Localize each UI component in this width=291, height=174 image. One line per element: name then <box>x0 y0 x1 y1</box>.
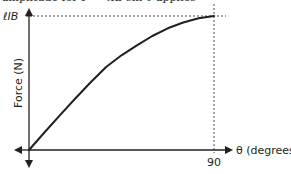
x-max-tick-label: 90 <box>207 156 221 169</box>
force-curve <box>29 16 214 150</box>
x-axis-label: θ (degrees) <box>236 144 291 157</box>
y-axis-label: Force (N) <box>12 58 25 108</box>
y-max-tick-label: ℓIB <box>2 10 18 23</box>
force-vs-angle-chart: ℓIB 90 θ (degrees) Force (N) <box>0 0 291 174</box>
